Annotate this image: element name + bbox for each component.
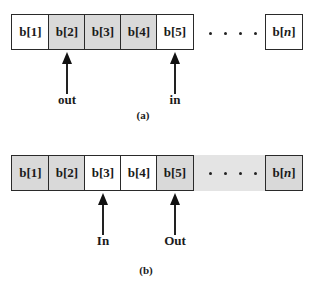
cell-label: b[4] [128, 165, 150, 181]
caption-b: (b) [139, 264, 152, 276]
cell-b1: b[1] [11, 155, 50, 191]
cell-label-index: n [284, 165, 291, 181]
cell-b5: b[5] [156, 155, 194, 191]
cell-b4: b[4] [120, 155, 158, 191]
dot [254, 172, 257, 175]
in-pointer-arrow [97, 193, 109, 235]
arrow-head-icon [170, 193, 180, 205]
panel-b: b[1] b[2] b[3] b[4] b[5] b[n] In Out (b) [0, 0, 314, 284]
out-pointer-label: Out [164, 233, 186, 249]
arrow-head-icon [98, 193, 108, 205]
cell-label: b[2] [56, 165, 78, 181]
out-pointer-arrow [169, 193, 181, 235]
cell-label: b[1] [19, 165, 41, 181]
cell-label: b[5] [164, 165, 186, 181]
dot [209, 172, 212, 175]
dot [224, 172, 227, 175]
arrow-shaft [102, 205, 104, 235]
cell-label-suffix: ] [291, 165, 295, 181]
cell-b3: b[3] [84, 155, 122, 191]
cell-label-prefix: b[ [272, 165, 284, 181]
in-pointer-label: In [97, 233, 109, 249]
arrow-shaft [174, 205, 176, 235]
dot [239, 172, 242, 175]
cell-label: b[3] [92, 165, 114, 181]
cell-b2: b[2] [48, 155, 86, 191]
cell-bn: b[n] [265, 155, 303, 191]
